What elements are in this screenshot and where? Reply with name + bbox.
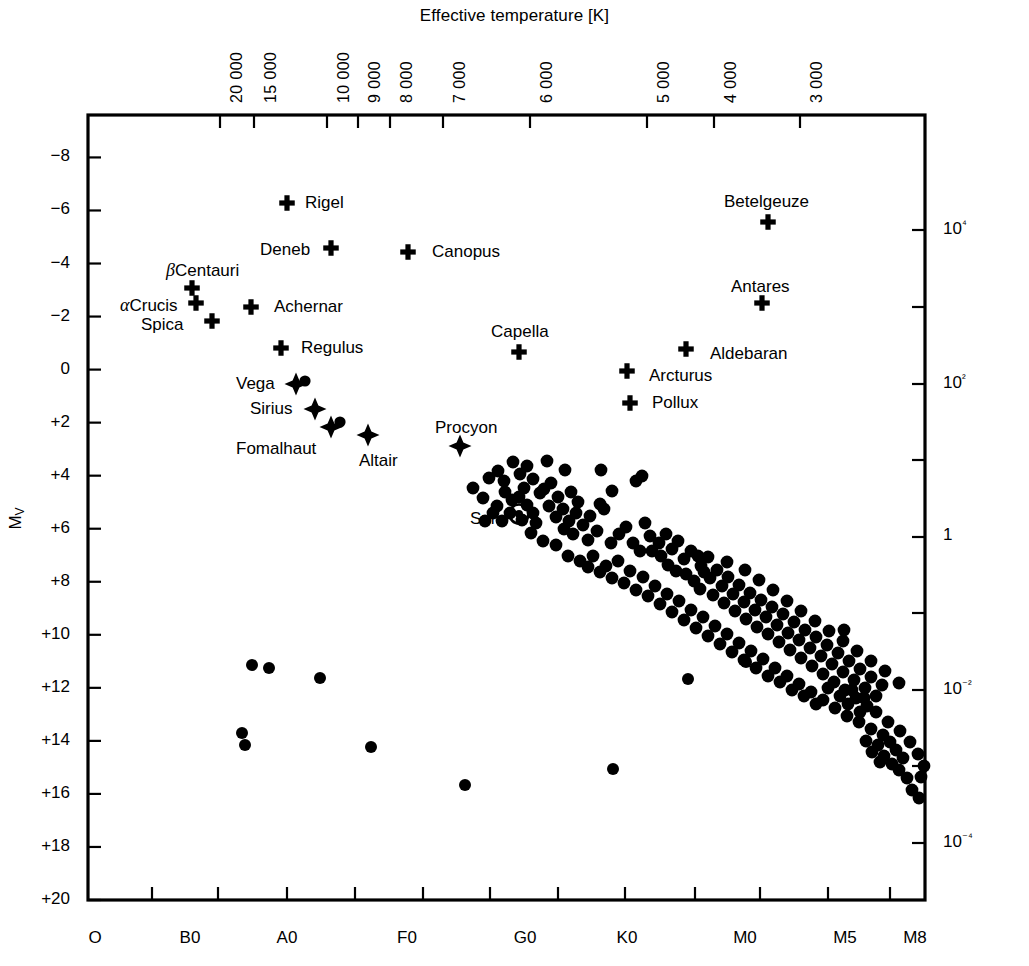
star-label-centauri: βCentauri [166,261,239,279]
star-label-altair: Altair [359,452,398,469]
star-label-spica: Spica [141,316,184,333]
hr-diagram-figure: Effective temperature [K] MV Luminosity … [0,0,1029,966]
star-label-vega: Vega [236,375,275,392]
greek-letter: β [166,260,175,280]
star-label-antares: Antares [731,278,790,295]
star-label-deneb: Deneb [260,241,310,258]
star-label-achernar: Achernar [274,298,343,315]
star-label-crucis: αCrucis [120,296,178,314]
star-label-sirius: Sirius [250,400,293,417]
star-label-capella: Capella [491,323,549,340]
star-label-betelgeuze: Betelgeuze [724,193,809,210]
star-label-layer: RigelBetelgeuzeDenebCanopusβCentauriAnta… [0,0,1029,966]
star-label-regulus: Regulus [301,339,363,356]
star-label-arcturus: Arcturus [649,367,712,384]
star-label-pollux: Pollux [652,394,698,411]
star-name-text: Centauri [175,261,239,280]
star-label-procyon: Procyon [435,419,497,436]
star-label-canopus: Canopus [432,243,500,260]
star-label-aldebaran: Aldebaran [710,345,788,362]
star-label-rigel: Rigel [305,194,344,211]
star-label-fomalhaut: Fomalhaut [236,440,316,457]
star-label-sun: Sun [470,510,500,527]
star-name-text: Crucis [129,296,177,315]
